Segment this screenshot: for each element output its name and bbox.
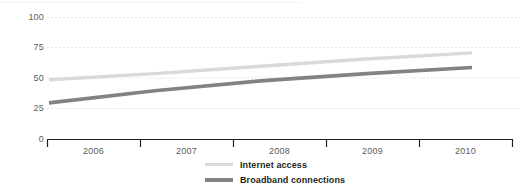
chart-legend: Internet access Broadband connections [205, 158, 345, 186]
legend-swatch-broadband-connections [205, 178, 233, 182]
x-tick-label-2010: 2010 [419, 146, 512, 156]
legend-label-internet-access: Internet access [240, 160, 307, 170]
y-tick-label-25: 25 [4, 103, 44, 113]
x-tick-label-2009: 2009 [326, 146, 419, 156]
y-tick-label-0: 0 [4, 134, 44, 144]
legend-item-internet-access: Internet access [205, 158, 345, 171]
x-tick-label-2007: 2007 [140, 146, 233, 156]
legend-item-broadband-connections: Broadband connections [205, 173, 345, 186]
x-tick-label-2008: 2008 [233, 146, 326, 156]
legend-label-broadband-connections: Broadband connections [240, 175, 345, 185]
y-tick-label-75: 75 [4, 42, 44, 52]
legend-swatch-internet-access [205, 163, 233, 166]
line-chart: 100 75 50 25 0 2006 2007 2008 2009 2010 … [0, 0, 531, 192]
y-tick-label-100: 100 [4, 12, 44, 22]
series-line-internet-access [49, 53, 472, 80]
y-tick-label-50: 50 [4, 73, 44, 83]
y-axis-tick-labels: 100 75 50 25 0 [0, 0, 44, 192]
series-line-broadband-connections [49, 68, 472, 103]
x-tick-label-2006: 2006 [47, 146, 140, 156]
